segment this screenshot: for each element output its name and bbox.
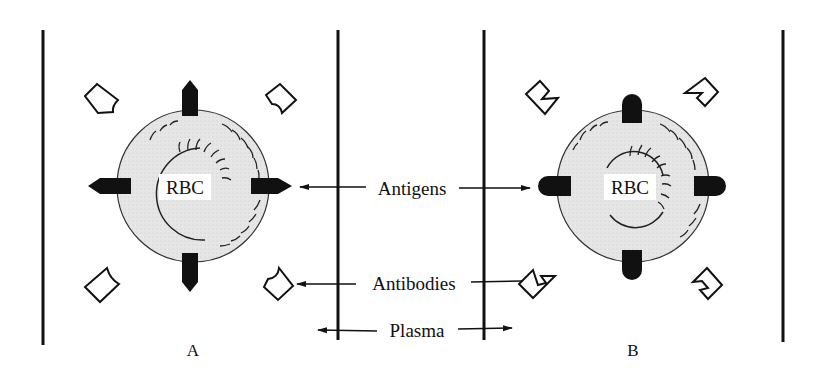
rbc-cell-a: RBC	[117, 110, 269, 262]
panel-label-b: B	[627, 341, 638, 360]
antigen-pointed-top	[182, 80, 198, 116]
antigen-rounded-left	[538, 176, 571, 196]
antibody-a-bottom-left	[85, 268, 119, 302]
antigen-rounded-right	[694, 176, 726, 196]
antigen-pointed-left	[88, 178, 131, 194]
panel-a: RBC A	[85, 80, 296, 360]
antibody-b-top-left	[526, 81, 558, 114]
antigen-pointed-bottom	[182, 253, 198, 292]
antibody-a-top-right	[266, 84, 296, 113]
antibody-b-bottom-left	[519, 270, 555, 298]
antibody-a-top-left	[85, 84, 118, 113]
rbc-cell-b: RBC	[557, 110, 709, 262]
antigen-pointed-right	[251, 178, 292, 194]
antibody-b-bottom-right	[693, 268, 722, 299]
antibodies-callout: Antibodies	[297, 273, 522, 294]
rbc-label-a: RBC	[166, 177, 204, 198]
panel-b: RBC B	[519, 78, 726, 360]
antibodies-label: Antibodies	[372, 273, 455, 294]
plasma-label: Plasma	[390, 320, 445, 341]
antibody-a-bottom-right	[264, 268, 293, 300]
antigen-rounded-top	[622, 94, 642, 123]
rbc-label-b: RBC	[611, 177, 649, 198]
antigens-callout: Antigens	[300, 178, 530, 199]
panel-label-a: A	[187, 341, 200, 360]
antigens-label: Antigens	[378, 178, 447, 199]
antibody-b-top-right	[685, 78, 718, 106]
antigen-rounded-bottom	[622, 250, 642, 280]
blood-type-diagram: RBC A	[0, 0, 820, 378]
